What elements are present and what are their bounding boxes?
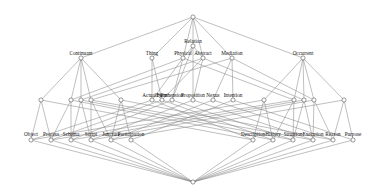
lattice-node [230,56,234,60]
lattice-node [251,138,255,142]
lattice-node [211,98,215,102]
lattice-node [29,138,33,142]
lattice-edge [193,140,293,182]
node-label: Occurrent [293,50,314,56]
lattice-edge [71,58,81,100]
lattice-edge [264,58,303,100]
node-label: Participation [118,131,145,137]
lattice-node [109,138,113,142]
node-label: Continuant [69,50,93,56]
lattice-edge [71,140,193,182]
lattice-node [170,98,174,102]
lattice-edge [193,140,313,182]
lattice-edge [111,140,193,182]
node-label: Script [85,131,98,137]
lattice-node [292,98,296,102]
node-label: Nexus [206,92,219,98]
lattice-node [89,138,93,142]
node-label: Relation [184,38,202,44]
lattice-node [89,98,93,102]
lattice-node [79,98,83,102]
node-label: Object [24,131,38,137]
lattice-edge [152,100,253,140]
node-label: Description [241,131,266,137]
node-label: Physical [174,50,192,56]
lattice-node [49,138,53,142]
lattice-node [291,138,295,142]
lattice-edge [303,58,314,100]
node-label: Mediation [221,50,243,56]
node-label: Process [43,131,59,137]
lattice-node [69,98,73,102]
top-node [191,15,195,19]
lattice-node [302,98,306,102]
node-label: Thing [146,50,159,56]
node-label: Intention [224,92,243,98]
lattice-node [150,98,154,102]
lattice-edge [303,58,304,100]
lattice-node [191,44,195,48]
lattice-edge [193,140,273,182]
lattice-node [191,98,195,102]
lattice-edge [303,58,344,100]
bottom-node [191,180,195,184]
lattice-node [160,98,164,102]
lattice-edge [41,58,81,100]
lattice-node [79,56,83,60]
node-label: Schema [63,131,80,137]
node-label: History [265,131,281,137]
lattice-edge [51,140,193,182]
lattice-edge [193,140,253,182]
node-label: Purpose [345,131,362,137]
lattice-node [201,56,205,60]
lattice-node [129,138,133,142]
node-label: Situation [284,131,303,137]
lattice-edge [81,58,121,100]
lattice-node [39,98,43,102]
lattice-diagram: ContinuantThingPhysicalRelationAbstractM… [0,0,388,194]
lattice-node [351,138,355,142]
lattice-node [271,138,275,142]
lattice-node [342,98,346,102]
node-label: Abstract [194,50,212,56]
lattice-node [231,98,235,102]
lattice-node [331,138,335,142]
lattice-node [69,138,73,142]
node-label: Proposition [181,92,205,98]
lattice-node [312,98,316,102]
lattice-edge [131,140,193,182]
lattice-edge [81,58,91,100]
lattice-node [119,98,123,102]
lattice-node [301,56,305,60]
node-label: Execution [302,131,323,137]
lattice-edge [31,140,193,182]
lattice-node [311,138,315,142]
lattice-node [181,56,185,60]
lattice-node [150,56,154,60]
lattice-edge [193,140,353,182]
lattice-edge [91,140,193,182]
lattice-edge [193,140,333,182]
lattice-node [262,98,266,102]
node-label: Reason [325,131,341,137]
